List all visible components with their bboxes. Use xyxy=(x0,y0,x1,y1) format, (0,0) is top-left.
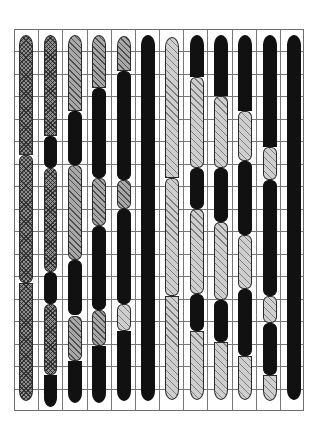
chromosome-bar[interactable] xyxy=(238,29,252,411)
bar-band xyxy=(165,296,179,399)
bar-band xyxy=(165,37,179,178)
bar-band xyxy=(44,136,58,168)
bar-band xyxy=(19,35,33,155)
bar-band xyxy=(117,71,131,180)
bar-band xyxy=(214,168,228,221)
chromosome-bar[interactable] xyxy=(263,29,277,411)
bar-band xyxy=(190,35,204,77)
chromosome-bar[interactable] xyxy=(287,29,301,411)
bar-band xyxy=(238,289,252,356)
bar-band xyxy=(190,77,204,169)
bar-band xyxy=(117,331,131,402)
bar-band xyxy=(68,260,82,315)
bar-band xyxy=(287,35,301,400)
bar-band xyxy=(214,300,228,342)
bar-band xyxy=(263,147,277,179)
bar-band xyxy=(117,304,131,331)
bar-band xyxy=(92,226,106,310)
chromosome-bar[interactable] xyxy=(44,29,58,411)
bar-band xyxy=(19,155,33,283)
bar-band xyxy=(263,180,277,297)
chromosome-bar[interactable] xyxy=(19,29,33,411)
bar-band xyxy=(19,283,33,401)
chromosome-bar[interactable] xyxy=(117,29,131,411)
bar-series-container xyxy=(14,29,304,411)
bar-band xyxy=(68,361,82,402)
bar-band xyxy=(92,35,106,88)
chromosome-bar[interactable] xyxy=(190,29,204,411)
chromosome-bar[interactable] xyxy=(165,29,179,411)
ideogram-figure xyxy=(0,0,319,440)
bar-band xyxy=(68,165,82,261)
bar-band xyxy=(92,88,106,178)
bar-band xyxy=(214,96,228,169)
bar-band xyxy=(238,161,252,235)
bar-band xyxy=(92,178,106,226)
bar-band xyxy=(238,111,252,161)
bar-band xyxy=(263,323,277,375)
bar-band xyxy=(44,304,58,375)
bar-band xyxy=(263,35,277,148)
bar-band xyxy=(68,35,82,111)
bar-band xyxy=(165,178,179,296)
bar-band xyxy=(68,111,82,164)
chromosome-bar[interactable] xyxy=(92,29,106,411)
bar-band xyxy=(117,36,131,71)
bar-band xyxy=(214,342,228,399)
bar-band xyxy=(141,35,155,402)
bar-band xyxy=(238,35,252,111)
bar-band xyxy=(238,356,252,400)
bar-band xyxy=(190,168,204,208)
bar-band xyxy=(117,209,131,305)
bar-band xyxy=(263,375,277,402)
bar-band xyxy=(214,222,228,300)
bar-band xyxy=(190,209,204,295)
bar-band xyxy=(190,294,204,330)
bar-band xyxy=(238,235,252,288)
bar-band xyxy=(190,331,204,401)
bar-band xyxy=(117,180,131,209)
chromosome-bar[interactable] xyxy=(214,29,228,411)
bar-band xyxy=(92,310,106,346)
bar-band xyxy=(68,316,82,362)
plot-area xyxy=(14,29,304,411)
bar-band xyxy=(44,272,58,304)
chromosome-bar[interactable] xyxy=(141,29,155,411)
bar-band xyxy=(92,346,106,403)
bar-band xyxy=(214,35,228,96)
bar-band xyxy=(263,296,277,323)
bar-band xyxy=(44,35,58,136)
chromosome-bar[interactable] xyxy=(68,29,82,411)
bar-band xyxy=(44,375,58,407)
bar-band xyxy=(44,168,58,271)
